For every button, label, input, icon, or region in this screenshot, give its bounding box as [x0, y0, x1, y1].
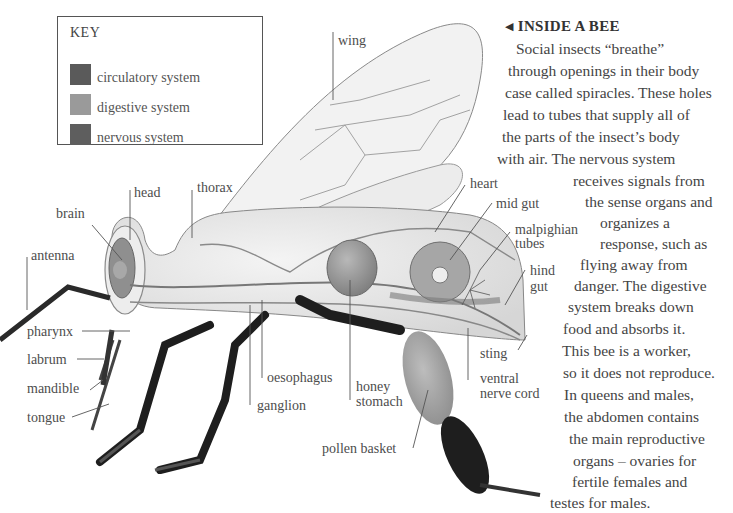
article-line: organizes a	[600, 214, 670, 232]
key-label: digestive system	[97, 101, 190, 115]
leg-front	[100, 325, 210, 462]
label-head: head	[134, 185, 160, 200]
label-malpighian-1: malpighian	[515, 222, 578, 237]
label-wing: wing	[338, 33, 366, 48]
article-title-text: INSIDE A BEE	[518, 18, 620, 34]
label-antenna: antenna	[31, 248, 75, 263]
key-label: circulatory system	[97, 71, 200, 85]
label-heart: heart	[470, 176, 498, 191]
label-thorax: thorax	[197, 180, 233, 195]
article-line: with air. The nervous system	[497, 150, 675, 168]
label-mid-gut: mid gut	[496, 196, 539, 211]
label-sting: sting	[480, 346, 507, 361]
key-item-circulatory: circulatory system	[70, 61, 200, 85]
article-line: response, such as	[600, 235, 707, 253]
article-line: fertile females and	[572, 473, 687, 491]
label-tongue: tongue	[27, 410, 65, 425]
article-line: organs – ovaries for	[573, 452, 696, 470]
page: KEY circulatory system digestive system …	[0, 0, 733, 513]
key-item-nervous: nervous system	[70, 121, 184, 145]
article-line: testes for males.	[550, 494, 650, 512]
circulatory-swatch	[70, 64, 91, 85]
article-line: Social insects “breathe”	[516, 40, 664, 58]
article-line: In queens and males,	[564, 386, 694, 404]
article-line: danger. The digestive	[574, 277, 707, 295]
label-ganglion: ganglion	[257, 398, 306, 413]
article-line: flying away from	[580, 256, 688, 274]
article-line: the parts of the insect’s body	[502, 128, 680, 146]
article-line: so it does not reproduce.	[563, 364, 715, 382]
article-line: through openings in their body	[508, 62, 699, 80]
label-labrum: labrum	[27, 352, 67, 367]
nervous-swatch	[70, 124, 91, 145]
article-line: the abdomen contains	[564, 408, 699, 426]
label-honey-stomach-2: stomach	[356, 394, 403, 409]
label-honey-stomach-1: honey	[356, 379, 390, 394]
pollen-basket	[393, 326, 462, 431]
article-line: food and absorbs it.	[563, 320, 685, 338]
label-pollen-basket: pollen basket	[322, 441, 396, 456]
left-arrow-icon: ◀	[505, 20, 514, 32]
honey-stomach	[327, 240, 377, 296]
key-item-digestive: digestive system	[70, 91, 190, 115]
label-hind-gut-1: hind	[530, 263, 555, 278]
article-line: lead to tubes that supply all of	[503, 106, 690, 124]
key-label: nervous system	[97, 131, 184, 145]
article-line: system breaks down	[568, 298, 694, 316]
label-mandible: mandible	[27, 381, 79, 396]
label-ventral-2: nerve cord	[480, 386, 539, 401]
article-line: the sense organs and	[585, 193, 713, 211]
legend-key: KEY circulatory system digestive system …	[57, 16, 263, 145]
label-pharynx: pharynx	[27, 324, 73, 339]
label-ventral-1: ventral	[480, 371, 519, 386]
label-oesophagus: oesophagus	[267, 370, 332, 385]
article-line: receives signals from	[573, 172, 705, 190]
label-hind-gut-2: gut	[530, 279, 548, 294]
article-line: case called spiracles. These holes	[505, 84, 712, 102]
digestive-swatch	[70, 94, 91, 115]
label-malpighian-2: tubes	[515, 236, 545, 251]
key-title: KEY	[70, 25, 100, 41]
article-title: ◀INSIDE A BEE	[505, 18, 620, 35]
article-line: This bee is a worker,	[562, 342, 691, 360]
article-line: the main reproductive	[569, 430, 705, 448]
label-brain: brain	[56, 206, 85, 221]
